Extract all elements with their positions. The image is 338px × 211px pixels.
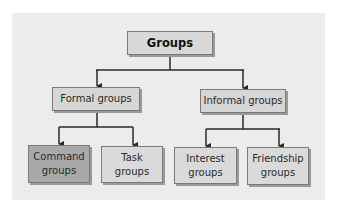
node-informal-groups-label: Informal groups [204,94,283,108]
node-groups-label: Groups [147,36,193,50]
node-friendship-groups: Friendship groups [247,147,309,185]
node-informal-groups: Informal groups [200,89,286,113]
node-task-groups-label: Task groups [115,151,149,179]
node-friendship-groups-label: Friendship groups [252,152,303,180]
node-task-groups: Task groups [101,146,163,183]
node-interest-groups-label: Interest groups [186,152,225,180]
node-interest-groups: Interest groups [174,147,237,184]
node-formal-groups: Formal groups [52,87,140,111]
node-formal-groups-label: Formal groups [60,92,132,106]
node-groups: Groups [127,31,213,55]
node-command-groups-label: Command groups [33,150,84,178]
node-command-groups: Command groups [28,145,90,183]
